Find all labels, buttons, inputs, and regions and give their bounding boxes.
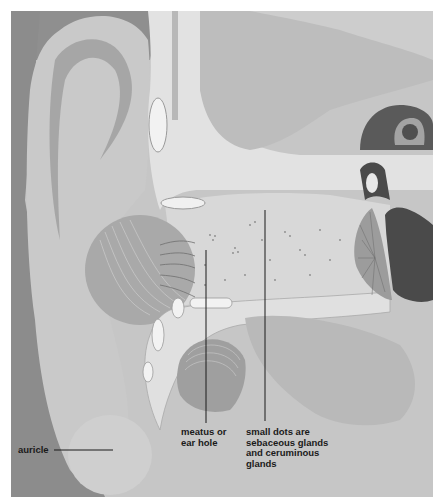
illustration-area: [11, 11, 433, 497]
cartilage-oval-canal-top: [161, 197, 205, 209]
cartilage-oval-lower-1: [172, 298, 184, 318]
auricle-label: auricle: [18, 445, 49, 456]
gland-dots-label: small dots are sebaceous glands and ceru…: [246, 427, 328, 469]
cartilage-bar-lower: [190, 298, 232, 308]
earlobe: [68, 415, 152, 495]
cartilage-oval-lower-3: [143, 362, 153, 382]
meatus-label: meatus or ear hole: [181, 427, 226, 448]
cartilage-oval-lower-2: [152, 319, 164, 351]
ossicle-light: [366, 173, 378, 193]
upper-cartilage-inner: [172, 11, 178, 120]
semicircular-canal-lumen: [402, 124, 418, 140]
antitragus: [177, 339, 246, 412]
cartilage-oval-upper: [149, 98, 167, 152]
